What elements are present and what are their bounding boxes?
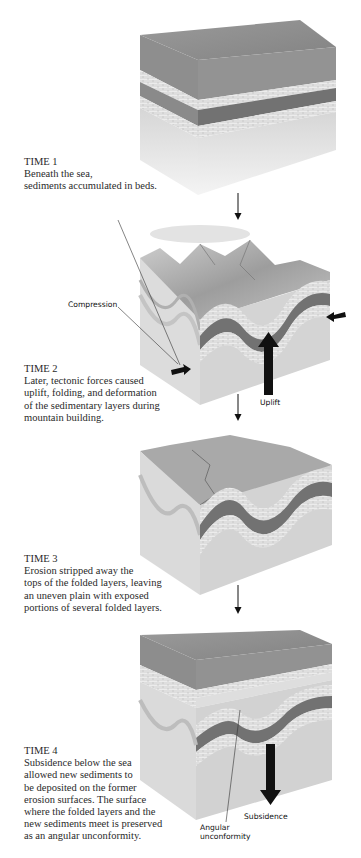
caption-line: be deposited on the former	[24, 782, 162, 794]
label-line: unconformity	[200, 832, 251, 841]
label-line: Angular	[200, 823, 251, 832]
stage-time-4: Subsidence Angular unconformity TIME 4 S…	[0, 630, 361, 858]
label-compression: Compression	[68, 300, 117, 309]
caption-line: as an angular unconformity.	[24, 830, 162, 842]
caption-time-4: TIME 4 Subsidence below the sea allowed …	[24, 745, 162, 843]
down-arrow-icon	[233, 585, 243, 615]
caption-title: TIME 3	[24, 553, 162, 565]
caption-line: Subsidence below the sea	[24, 757, 162, 769]
label-uplift: Uplift	[260, 398, 280, 407]
caption-title: TIME 1	[24, 156, 157, 168]
label-angular-unconformity: Angular unconformity	[200, 823, 251, 841]
caption-line: uplift, folding, and deformation	[24, 387, 160, 399]
caption-line: of the sedimentary layers during	[24, 400, 160, 412]
caption-time-3: TIME 3 Erosion stripped away the tops of…	[24, 553, 162, 614]
caption-line: new sediments meet is preserved	[24, 818, 162, 830]
caption-line: erosion surfaces. The surface	[24, 794, 162, 806]
caption-line: mountain building.	[24, 412, 160, 424]
stage-time-1: TIME 1 Beneath the sea, sediments accumu…	[0, 0, 361, 225]
caption-time-2: TIME 2 Later, tectonic forces caused upl…	[24, 363, 160, 424]
stage-time-2: Compression Uplift TIME 2 Later, tectoni…	[0, 220, 361, 420]
caption-line: sediments accumulated in beds.	[24, 180, 157, 192]
caption-line: an uneven plain with exposed	[24, 590, 162, 602]
down-arrow-icon	[233, 394, 243, 422]
caption-title: TIME 4	[24, 745, 162, 757]
caption-line: Beneath the sea,	[24, 168, 157, 180]
stage-time-3: TIME 3 Erosion stripped away the tops of…	[0, 425, 361, 635]
caption-line: Erosion stripped away the	[24, 565, 162, 577]
caption-line: tops of the folded layers, leaving	[24, 577, 162, 589]
caption-line: allowed new sediments to	[24, 769, 162, 781]
caption-line: where the folded layers and the	[24, 806, 162, 818]
down-arrow-icon	[233, 193, 243, 221]
caption-line: portions of several folded layers.	[24, 602, 162, 614]
label-subsidence: Subsidence	[244, 812, 288, 821]
caption-title: TIME 2	[24, 363, 160, 375]
caption-line: Later, tectonic forces caused	[24, 375, 160, 387]
caption-time-1: TIME 1 Beneath the sea, sediments accumu…	[24, 156, 157, 193]
